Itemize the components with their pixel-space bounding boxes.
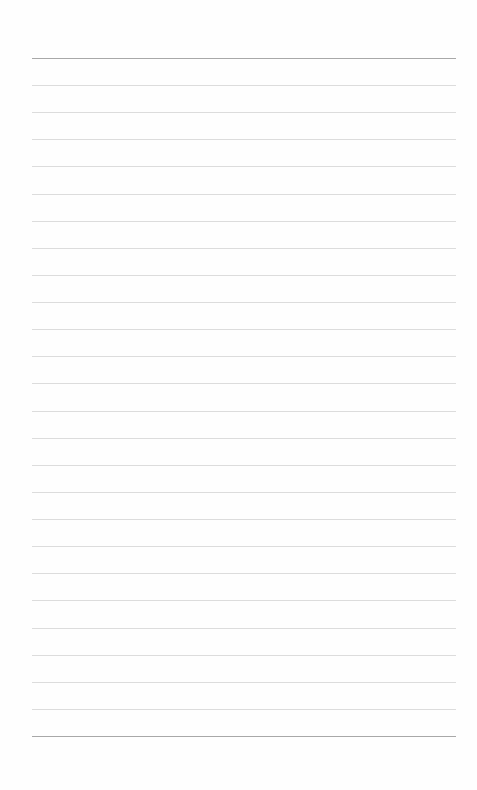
rule-line xyxy=(32,221,456,222)
lined-paper-page xyxy=(0,0,477,790)
rule-line xyxy=(32,85,456,86)
rule-line xyxy=(32,275,456,276)
rule-line xyxy=(32,519,456,520)
rule-line xyxy=(32,465,456,466)
rule-line xyxy=(32,411,456,412)
rule-line xyxy=(32,248,456,249)
rule-line xyxy=(32,682,456,683)
bottom-rule-line xyxy=(32,736,456,737)
rule-line xyxy=(32,655,456,656)
rule-line xyxy=(32,709,456,710)
top-rule-line xyxy=(32,58,456,59)
rule-line xyxy=(32,356,456,357)
rule-line xyxy=(32,329,456,330)
rule-line xyxy=(32,194,456,195)
rule-line xyxy=(32,573,456,574)
rule-line xyxy=(32,383,456,384)
rule-line xyxy=(32,600,456,601)
rule-line xyxy=(32,438,456,439)
rule-line xyxy=(32,112,456,113)
rule-line xyxy=(32,628,456,629)
rule-line xyxy=(32,492,456,493)
rule-line xyxy=(32,139,456,140)
rule-line xyxy=(32,546,456,547)
rule-line xyxy=(32,302,456,303)
rule-line xyxy=(32,166,456,167)
